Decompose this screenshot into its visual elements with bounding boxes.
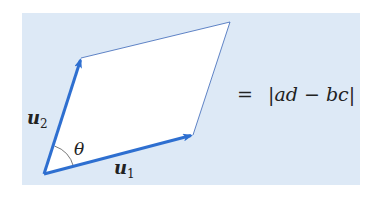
svg-text:=: = (237, 83, 253, 105)
svg-text:|ad − bc|: |ad − bc| (268, 83, 355, 106)
svg-text:2: 2 (40, 117, 48, 131)
svg-text:1: 1 (127, 167, 135, 181)
parallelogram-diagram: θ u 1 u 2 = |ad − bc| (0, 0, 385, 199)
svg-text:u: u (114, 157, 127, 178)
label-theta: θ (74, 139, 84, 159)
svg-text:u: u (27, 107, 40, 128)
